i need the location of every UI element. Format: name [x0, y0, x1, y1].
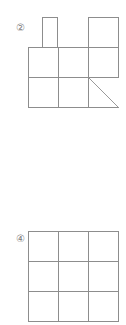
grid-cell-r2-c2 — [89, 292, 119, 322]
option-label-4: ④ — [13, 231, 28, 246]
option-block-2: ② — [0, 0, 126, 115]
grid-cell-r1-c2 — [89, 262, 119, 292]
option-4-figure — [28, 231, 122, 325]
option-2-figure — [28, 17, 122, 111]
option-block-4: ④ — [0, 112, 126, 222]
cell-r2-c0 — [29, 78, 59, 108]
cell-top-right-square — [89, 18, 119, 48]
cell-tab-narrow — [43, 18, 58, 48]
grid-cell-r2-c0 — [29, 292, 59, 322]
cell-r1-c2 — [89, 48, 119, 78]
cell-r1-c1 — [59, 48, 89, 78]
grid-cell-r0-c1 — [59, 232, 89, 262]
grid-cell-r2-c1 — [59, 292, 89, 322]
diagonal-cut-line — [89, 78, 119, 108]
grid-cell-r1-c1 — [59, 262, 89, 292]
cell-r2-c1 — [59, 78, 89, 108]
grid-cell-r0-c2 — [89, 232, 119, 262]
cell-r1-c0 — [29, 48, 59, 78]
option-label-2: ② — [13, 20, 28, 35]
grid-cell-r1-c0 — [29, 262, 59, 292]
grid-cell-r0-c0 — [29, 232, 59, 262]
